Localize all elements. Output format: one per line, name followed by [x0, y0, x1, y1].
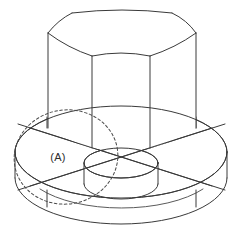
isometric-drawing-canvas: (A) — [0, 0, 242, 247]
hexagonal-boss — [48, 10, 196, 151]
section-label-a: (A) — [50, 151, 65, 163]
technical-drawing-figure: (A) — [0, 0, 242, 247]
